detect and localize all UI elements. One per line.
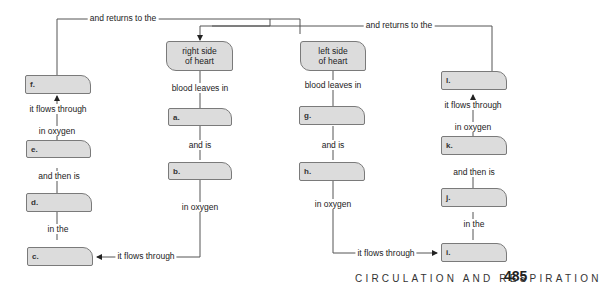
- box-label: e.: [31, 145, 38, 154]
- link-label: in oxygen: [37, 126, 77, 136]
- link-label: it flows through: [355, 248, 416, 258]
- link-label: in oxygen: [313, 199, 353, 209]
- blank-box-d[interactable]: d.: [26, 193, 92, 212]
- blank-box-l[interactable]: l.: [441, 71, 507, 90]
- link-label: it flows through: [442, 100, 503, 110]
- link-label: and is: [320, 140, 347, 150]
- link-label: in oxygen: [453, 122, 493, 132]
- link-label: it flows through: [27, 104, 88, 114]
- blank-box-h[interactable]: h.: [299, 162, 365, 181]
- link-label: blood leaves in: [170, 83, 231, 93]
- link-label: in the: [462, 219, 487, 229]
- box-label: b.: [173, 167, 180, 176]
- blank-box-b[interactable]: b.: [168, 162, 232, 180]
- box-label: g.: [304, 111, 311, 120]
- blank-box-f[interactable]: f.: [25, 75, 91, 94]
- page-number: 485: [504, 268, 527, 284]
- box-left-side-of-heart: left side of heart: [300, 41, 366, 71]
- box-text: left side of heart: [318, 46, 347, 66]
- box-label: k.: [446, 141, 453, 150]
- link-label: blood leaves in: [303, 80, 364, 90]
- blank-box-c[interactable]: c.: [27, 247, 93, 266]
- blank-box-a[interactable]: a.: [168, 108, 232, 126]
- box-label: f.: [30, 80, 35, 89]
- box-label: a.: [173, 113, 180, 122]
- blank-box-j[interactable]: j.: [441, 188, 507, 207]
- section-title: CIRCULATION AND RESPIRATION: [355, 273, 602, 284]
- blank-box-g[interactable]: g.: [299, 106, 365, 125]
- blank-box-k[interactable]: k.: [441, 136, 507, 155]
- box-label: i.: [446, 248, 450, 257]
- link-label: and then is: [451, 167, 497, 177]
- box-label: l.: [446, 76, 450, 85]
- link-label: in oxygen: [180, 202, 220, 212]
- link-label: and then is: [36, 171, 82, 181]
- link-label: in the: [46, 224, 71, 234]
- link-label: and is: [187, 140, 214, 150]
- box-label: c.: [32, 252, 39, 261]
- link-label: and returns to the: [88, 13, 159, 23]
- blank-box-e[interactable]: e.: [26, 140, 91, 158]
- box-text: right side of heart: [182, 46, 217, 66]
- box-right-side-of-heart: right side of heart: [166, 41, 233, 71]
- box-label: h.: [304, 167, 311, 176]
- link-label: it flows through: [115, 251, 176, 261]
- link-label: and returns to the: [364, 20, 435, 30]
- blank-box-i[interactable]: i.: [441, 243, 507, 262]
- box-label: j.: [446, 193, 450, 202]
- box-label: d.: [31, 198, 38, 207]
